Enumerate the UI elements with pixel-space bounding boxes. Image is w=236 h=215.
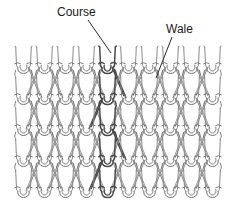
yarn-segment <box>94 46 95 47</box>
yarn-segment <box>162 46 163 47</box>
knit-fabric-diagram: Course Wale <box>0 0 236 215</box>
yarn-segment <box>73 46 74 47</box>
yarn-segment <box>15 46 16 47</box>
yarn-segment <box>78 46 79 47</box>
yarn-segment <box>57 46 58 47</box>
yarn-segment <box>141 46 142 47</box>
yarn-segment <box>99 46 100 47</box>
yarn-segment <box>120 46 121 47</box>
figure-background <box>0 0 236 215</box>
yarn-segment <box>31 46 32 47</box>
yarn-segment <box>115 46 116 47</box>
yarn-segment <box>204 46 205 47</box>
yarn-segment <box>178 46 179 47</box>
yarn-segment <box>220 46 221 47</box>
yarn-segment <box>157 46 158 47</box>
yarn-segment <box>183 46 184 47</box>
yarn-segment <box>52 46 53 47</box>
wale-label: Wale <box>166 22 193 36</box>
course-label: Course <box>57 5 96 19</box>
yarn-segment <box>136 46 137 47</box>
yarn-segment <box>36 46 37 47</box>
yarn-segment <box>199 46 200 47</box>
